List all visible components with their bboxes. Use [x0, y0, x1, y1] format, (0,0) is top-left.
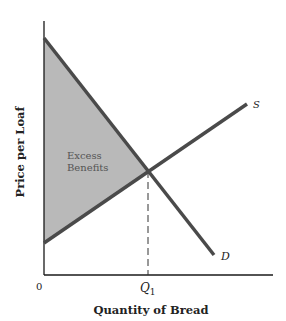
- x-axis-title: Quantity of Bread: [93, 303, 208, 317]
- supply-label: S: [253, 99, 260, 110]
- origin-label: 0: [36, 281, 42, 292]
- y-axis-title: Price per Loaf: [13, 105, 27, 197]
- chart: S D Excess Benefits 0 Q1 Quantity of Bre…: [0, 0, 286, 321]
- demand-label: D: [220, 250, 230, 263]
- region-label-line1: Excess: [67, 150, 102, 161]
- q1-sub: 1: [150, 287, 156, 297]
- q1-main: Q: [140, 281, 150, 295]
- excess-benefits-region: [44, 38, 148, 243]
- q1-label: Q1: [140, 281, 156, 297]
- region-label-line2: Benefits: [67, 162, 108, 173]
